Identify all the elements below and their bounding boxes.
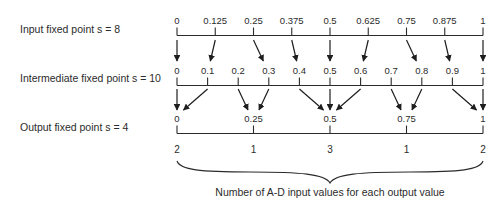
intermediate-to-output-arrow [452, 89, 476, 110]
intermediate-tick-label: 0.3 [262, 65, 275, 76]
output-axis: 00.250.50.751 [174, 113, 485, 134]
output-tick-label: 0.5 [323, 113, 336, 124]
intermediate-tick-label: 0 [174, 65, 179, 76]
output-tick-label: 0 [174, 113, 179, 124]
intermediate-tick-label: 0.1 [201, 65, 214, 76]
intermediate-to-output-arrow [391, 89, 401, 110]
output-row-label: Output fixed point s = 4 [20, 121, 128, 133]
output-tick-label: 0.75 [397, 113, 416, 124]
input-row-label: Input fixed point s = 8 [20, 23, 120, 35]
intermediate-tick-label: 0.4 [293, 65, 306, 76]
count-label: 2 [174, 144, 180, 155]
count-label: 1 [251, 144, 257, 155]
input-to-intermediate-arrow [363, 40, 368, 61]
intermediate-to-output-arrow [184, 89, 208, 110]
intermediate-tick-label: 0.8 [415, 65, 428, 76]
input-tick-label: 0.625 [356, 15, 380, 26]
intermediate-to-output-arrow [337, 89, 361, 110]
input-tick-label: 0.375 [280, 15, 304, 26]
input-tick-label: 0.125 [203, 15, 227, 26]
input-to-intermediate-arrow [407, 40, 417, 61]
intermediate-to-output-arrow [259, 89, 269, 110]
input-tick-label: 0 [174, 15, 179, 26]
input-tick-label: 0.5 [323, 15, 336, 26]
intermediate-to-output-arrow [299, 89, 323, 110]
curly-brace [177, 161, 483, 183]
input-to-intermediate-arrow [254, 40, 264, 61]
intermediate-tick-label: 0.5 [323, 65, 336, 76]
input-axis: 00.1250.250.3750.50.6250.750.8751 [174, 15, 485, 36]
intermediate-tick-label: 0.7 [385, 65, 398, 76]
intermediate-to-output-arrow [412, 89, 422, 110]
counts-group: 21312 [174, 144, 486, 155]
intermediate-tick-label: 0.2 [232, 65, 245, 76]
output-tick-label: 1 [480, 113, 485, 124]
quantization-diagram: Input fixed point s = 8 Intermediate fix… [0, 0, 502, 201]
intermediate-row-label: Intermediate fixed point s = 10 [20, 72, 161, 84]
caption: Number of A-D input values for each outp… [215, 186, 445, 198]
input-tick-label: 0.75 [397, 15, 416, 26]
input-to-intermediate-arrow [210, 40, 215, 61]
input-tick-label: 0.875 [433, 15, 457, 26]
intermediate-tick-label: 0.6 [354, 65, 367, 76]
input-to-intermediate-arrow [292, 40, 297, 61]
intermediate-axis: 00.10.20.30.40.50.60.70.80.91 [174, 65, 485, 86]
intermediate-tick-label: 1 [480, 65, 485, 76]
count-label: 3 [327, 144, 333, 155]
output-tick-label: 0.25 [244, 113, 263, 124]
intermediate-tick-label: 0.9 [446, 65, 459, 76]
axes-group: 00.1250.250.3750.50.6250.750.875100.10.2… [174, 15, 485, 134]
input-tick-label: 1 [480, 15, 485, 26]
input-to-intermediate-arrow [445, 40, 450, 61]
count-label: 2 [480, 144, 486, 155]
input-tick-label: 0.25 [244, 15, 263, 26]
intermediate-to-output-arrow [238, 89, 248, 110]
count-label: 1 [404, 144, 410, 155]
